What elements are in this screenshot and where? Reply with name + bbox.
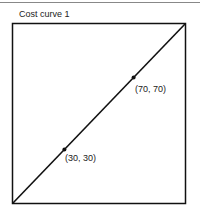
label-point-70-70: (70, 70): [135, 84, 166, 94]
point-70-70: [132, 76, 136, 80]
cost-line: [13, 24, 186, 204]
label-point-30-30: (30, 30): [65, 153, 96, 163]
cost-curve-diagram: [0, 0, 200, 223]
point-30-30: [62, 148, 66, 152]
